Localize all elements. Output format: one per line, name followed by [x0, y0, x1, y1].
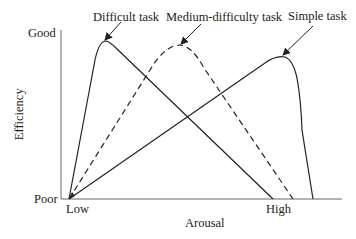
arrow-medium-difficulty-task	[181, 24, 201, 44]
x-tick-high: High	[266, 203, 291, 216]
x-tick-low: Low	[66, 203, 89, 216]
curve-simple-task	[69, 57, 313, 199]
y-tick-good: Good	[28, 27, 56, 40]
label-difficult-task: Difficult task	[93, 11, 159, 24]
x-axis-label: Arousal	[185, 217, 225, 230]
y-tick-poor: Poor	[34, 193, 58, 206]
arrow-difficult-task	[105, 22, 121, 40]
label-medium-difficulty-task: Medium-difficulty task	[166, 11, 282, 24]
curve-difficult-task	[69, 41, 273, 199]
label-simple-task: Simple task	[288, 10, 347, 23]
y-axis-label: Efficiency	[13, 88, 26, 140]
arrow-simple-task	[283, 26, 313, 55]
